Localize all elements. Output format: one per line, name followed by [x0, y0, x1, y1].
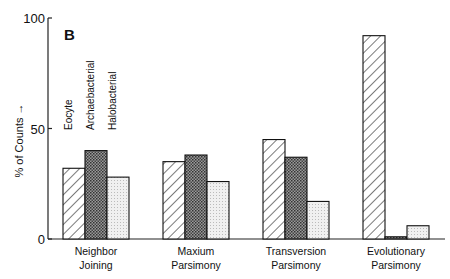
legend-label-eocyte: Eocyte	[63, 99, 74, 130]
x-category-label: Parsimony	[371, 259, 421, 271]
bar-halobacterial	[107, 177, 129, 239]
bar-archaebacterial	[385, 237, 407, 239]
y-axis-label: % of Counts →	[13, 104, 25, 178]
legend-label-halobacterial: Halobacterial	[107, 72, 118, 130]
x-category-label: Neighbor	[75, 245, 118, 257]
panel-label: B	[64, 26, 75, 43]
bar-eocyte	[163, 162, 185, 239]
bar-eocyte	[63, 168, 85, 239]
bar-eocyte	[363, 36, 385, 239]
x-category-label: Evolutionary	[367, 245, 426, 257]
bar-halobacterial	[407, 226, 429, 239]
x-category-label: Transversion	[266, 245, 326, 257]
y-tick-label: 50	[31, 122, 45, 137]
x-category-label: Parsimony	[271, 259, 321, 271]
x-category-label: Joining	[79, 259, 112, 271]
bar-chart: 050100% of Counts → BNeighborJoiningMaxi…	[0, 0, 450, 279]
legend-label-archaebacterial: Archaebacterial	[85, 61, 96, 130]
bars	[63, 36, 429, 239]
y-tick-label: 0	[38, 232, 45, 247]
y-tick-label: 100	[23, 11, 45, 26]
x-category-label: Parsimony	[171, 259, 221, 271]
bar-archaebacterial	[285, 157, 307, 239]
bar-halobacterial	[307, 201, 329, 239]
bar-archaebacterial	[85, 151, 107, 239]
bar-archaebacterial	[185, 155, 207, 239]
x-category-label: Maxium	[178, 245, 215, 257]
bar-eocyte	[263, 140, 285, 239]
bar-halobacterial	[207, 182, 229, 239]
